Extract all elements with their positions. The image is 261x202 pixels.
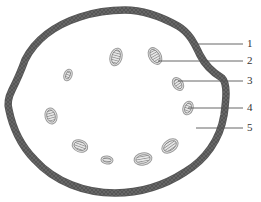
vascular-bundle (108, 47, 124, 67)
vascular-bundle (145, 45, 164, 67)
epidermis-band (8, 10, 226, 193)
label-1: 1 (247, 38, 253, 49)
label-2: 2 (247, 55, 253, 66)
vascular-bundle (101, 155, 114, 164)
cross-section-diagram (0, 0, 261, 202)
vascular-bundle (159, 136, 181, 156)
label-3: 3 (247, 75, 253, 86)
vascular-bundle (133, 152, 153, 167)
vascular-bundle (62, 68, 74, 82)
vascular-bundle (170, 75, 186, 92)
vascular-bundles (43, 45, 195, 166)
vascular-bundle (43, 107, 59, 126)
outline-hatch (8, 10, 226, 193)
vascular-bundle (70, 138, 89, 155)
label-4: 4 (247, 102, 253, 113)
label-5: 5 (247, 122, 253, 133)
